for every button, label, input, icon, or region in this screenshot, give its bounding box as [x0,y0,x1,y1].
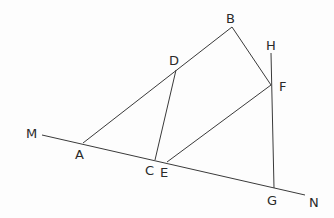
segment-DC [155,70,176,160]
diagram-lines [0,0,334,218]
label-C: C [145,164,154,177]
label-M: M [26,127,37,140]
label-F: F [279,80,286,93]
segment-BF [232,27,271,85]
line-MN [42,135,305,195]
label-B: B [226,12,235,25]
label-H: H [266,39,276,52]
geometry-diagram: M A C E G N B D F H [0,0,334,218]
label-E: E [160,166,168,179]
label-D: D [169,54,179,67]
segment-HG [271,53,274,188]
label-A: A [75,148,84,161]
label-N: N [309,196,319,209]
segment-AB [83,27,232,143]
label-G: G [267,194,277,207]
segment-EF [167,85,271,162]
